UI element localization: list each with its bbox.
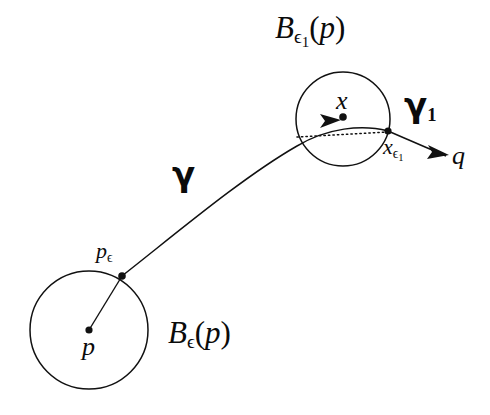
arg-p: p (205, 315, 221, 350)
paren-open: ( (309, 10, 319, 45)
label-curve-gamma: γ (172, 157, 195, 191)
label-curve-gamma1: γ1 (404, 88, 437, 122)
arrowhead-gamma1 (427, 145, 449, 159)
subscript-one: 1 (427, 104, 436, 125)
paren-close: ) (335, 10, 345, 45)
label-point-x: x (336, 88, 348, 114)
paren-open: ( (195, 315, 205, 350)
subscript-one: 1 (398, 151, 403, 162)
label-ball-eps1-of-p: Bϵ1(p) (275, 12, 345, 43)
subscript-eps1: ϵ1 (393, 146, 404, 161)
diagram-canvas: Bϵ1(p) Bϵ(p) x xϵ1 q p pϵ γ γ1 (0, 0, 490, 415)
arrowhead-gamma (320, 114, 341, 128)
dotted-chord-in-ball (297, 132, 387, 137)
label-point-p-eps: pϵ (96, 240, 113, 262)
label-point-q: q (452, 143, 465, 169)
figure-vector-graphics (0, 0, 490, 415)
geodesic-curve-gamma (122, 128, 388, 276)
subscript-eps1: ϵ1 (294, 26, 309, 47)
arg-p: p (320, 10, 336, 45)
label-point-p: p (82, 334, 95, 360)
point-marker-p-eps (118, 272, 126, 280)
label-ball-eps-of-p: Bϵ(p) (168, 317, 231, 348)
radius-segment-p-to-p-eps (89, 276, 122, 330)
label-point-x-eps1: xϵ1 (383, 136, 404, 158)
paren-close: ) (221, 315, 231, 350)
subscript-eps: ϵ (187, 331, 195, 352)
subscript-eps: ϵ (107, 250, 113, 265)
